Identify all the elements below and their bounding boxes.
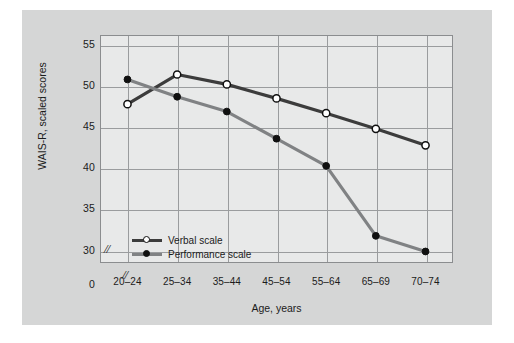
y-tick-label-45: 45 [62,120,95,132]
series-line-verbal-scale [127,75,425,146]
x-axis-title: Age, years [100,302,453,314]
legend-label: Performance scale [168,249,251,260]
plot-wrapper: WAIS-R, scaled scores 303540455055 20–24… [22,10,492,325]
chart-panel: WAIS-R, scaled scores 303540455055 20–24… [22,10,492,325]
x-tick-label-2: 35–44 [213,276,241,287]
figure-canvas: WAIS-R, scaled scores 303540455055 20–24… [0,0,514,343]
y-tick-label-30: 30 [62,244,95,256]
x-tick-label-0: 20–24 [113,276,141,287]
x-tick-label-5: 65–69 [362,276,390,287]
x-axis-break-icon: // [122,267,127,283]
x-tick-label-1: 25–34 [163,276,191,287]
y-axis-title: WAIS-R, scaled scores [36,36,48,196]
data-point-verbal-scale-1 [174,71,181,78]
data-point-performance-scale-2 [223,108,230,115]
y-tick-label-35: 35 [62,202,95,214]
legend-dot-icon [143,250,150,257]
data-point-verbal-scale-3 [273,95,280,102]
legend-dot-icon [143,236,150,243]
legend-marker-icon [132,249,162,259]
x-tick-label-6: 70–74 [411,276,439,287]
series-line-performance-scale [127,79,425,251]
y-axis-break-icon: // [104,241,109,257]
data-point-verbal-scale-4 [323,110,330,117]
legend-marker-icon [132,235,162,245]
data-point-performance-scale-5 [372,232,379,239]
data-point-performance-scale-3 [273,135,280,142]
x-tick-label-4: 55–64 [312,276,340,287]
legend-item-verbal-scale: Verbal scale [132,233,251,247]
data-point-performance-scale-1 [174,93,181,100]
y-tick-label-50: 50 [62,79,95,91]
data-point-verbal-scale-6 [422,142,429,149]
data-point-verbal-scale-5 [372,125,379,132]
y-tick-label-55: 55 [62,38,95,50]
series-lines-layer [100,35,453,263]
data-point-performance-scale-4 [323,162,330,169]
legend-label: Verbal scale [168,235,222,246]
data-point-verbal-scale-0 [124,101,131,108]
x-tick-label-3: 45–54 [262,276,290,287]
data-point-performance-scale-6 [422,248,429,255]
y-tick-label-40: 40 [62,161,95,173]
data-point-performance-scale-0 [124,76,131,83]
data-point-verbal-scale-2 [223,81,230,88]
legend-item-performance-scale: Performance scale [132,247,251,261]
chart-legend: Verbal scalePerformance scale [132,233,251,261]
y-axis-origin-label: 0 [62,278,95,290]
